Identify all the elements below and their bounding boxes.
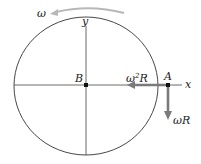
y-axis-label: y bbox=[81, 15, 89, 28]
point-b-label: B bbox=[74, 72, 83, 85]
tangential-arrowhead-icon bbox=[164, 111, 172, 120]
x-axis-label: x bbox=[185, 78, 192, 91]
rotation-arrowhead-icon bbox=[50, 9, 58, 16]
omega-label: ω bbox=[37, 7, 46, 20]
point-a-marker bbox=[166, 83, 170, 87]
centripetal-omega: ω bbox=[126, 72, 135, 85]
rotation-arc-arrow bbox=[56, 8, 124, 13]
tangential-label: ωR bbox=[173, 114, 190, 127]
rotating-disk-diagram: ω y x B A ω2R ωR bbox=[0, 0, 201, 164]
centripetal-label: ω2R bbox=[126, 72, 148, 85]
point-a-label: A bbox=[163, 70, 172, 83]
centripetal-r: R bbox=[138, 72, 147, 85]
point-b-marker bbox=[84, 83, 88, 87]
